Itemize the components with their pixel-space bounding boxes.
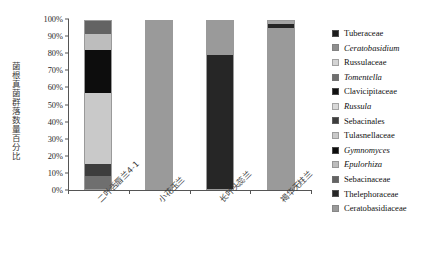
y-tick-mark — [65, 87, 69, 88]
bar-3 — [206, 20, 234, 190]
bar-segment — [268, 28, 294, 189]
legend-swatch-icon — [332, 74, 339, 81]
legend-swatch-icon — [332, 103, 339, 110]
legend-item-russula[interactable]: Russula — [332, 99, 438, 114]
y-tick-label: 20% — [48, 151, 63, 160]
bar-segment — [207, 21, 233, 55]
y-tick-mark — [65, 36, 69, 37]
bar-segment — [85, 34, 111, 49]
y-tick-label: 60% — [48, 83, 63, 92]
legend-swatch-icon — [332, 59, 339, 66]
stacked-bar-chart: 菌根真菌群落数量百分比 100%90%80%70%60%50%40%30%20%… — [0, 0, 439, 258]
legend-item-epulorhiza[interactable]: Epulorhiza — [332, 157, 438, 172]
legend-swatch-icon — [332, 205, 339, 212]
legend-label: Gymnomyces — [344, 146, 390, 155]
legend-swatch-icon — [332, 30, 339, 37]
y-axis-title: 菌根真菌群落数量百分比 — [6, 26, 22, 196]
bar-segment — [85, 21, 111, 34]
bar-segment — [207, 55, 233, 189]
legend-label: Russula — [344, 102, 371, 111]
bar-segment — [146, 21, 172, 189]
y-tick-mark — [65, 121, 69, 122]
legend-swatch-icon — [332, 44, 339, 51]
plot-area: 100%90%80%70%60%50%40%30%20%10%0% — [68, 19, 311, 191]
y-tick-label: 0% — [52, 186, 63, 195]
legend-item-thelephoraceae[interactable]: Thelephoraceae — [332, 187, 438, 202]
y-axis-line — [68, 19, 69, 191]
bar-4 — [267, 20, 295, 190]
legend-item-tomentella[interactable]: Tomentella — [332, 70, 438, 85]
legend-label: Ceratobasidiaceae — [344, 204, 407, 213]
legend-swatch-icon — [332, 176, 339, 183]
y-tick-mark — [65, 155, 69, 156]
y-tick-label: 80% — [48, 49, 63, 58]
legend-label: Tuberaceae — [344, 29, 383, 38]
y-tick-mark — [65, 19, 69, 20]
legend-label: Tomentella — [344, 73, 382, 82]
legend-swatch-icon — [332, 161, 339, 168]
y-tick-label: 100% — [43, 15, 63, 24]
x-tick-mark — [68, 190, 69, 194]
y-tick-label: 40% — [48, 117, 63, 126]
y-tick-label: 90% — [48, 32, 63, 41]
legend-item-tuberaceae[interactable]: Tuberaceae — [332, 26, 438, 41]
chart-legend: TuberaceaeCeratobasidiumRussulaceaeTomen… — [332, 26, 438, 216]
y-tick-mark — [65, 70, 69, 71]
legend-item-gymnomyces[interactable]: Gymnomyces — [332, 143, 438, 158]
bar-segment — [85, 93, 111, 164]
x-tick-mark — [311, 190, 312, 194]
x-tick-mark — [129, 190, 130, 194]
legend-label: Tulasnellaceae — [344, 131, 395, 140]
y-tick-mark — [65, 138, 69, 139]
y-tick-label: 10% — [48, 168, 63, 177]
legend-label: Epulorhiza — [344, 160, 382, 169]
legend-label: Sebacinaceae — [344, 175, 390, 184]
y-tick-mark — [65, 104, 69, 105]
bar-2 — [145, 20, 173, 190]
legend-item-russulaceae[interactable]: Russulaceae — [332, 55, 438, 70]
bar-1 — [84, 20, 112, 190]
y-tick-mark — [65, 53, 69, 54]
y-tick-label: 70% — [48, 66, 63, 75]
legend-label: Ceratobasidium — [344, 44, 399, 53]
legend-label: Clavicipitaceae — [344, 87, 397, 96]
legend-swatch-icon — [332, 147, 339, 154]
y-tick-label: 30% — [48, 134, 63, 143]
legend-item-ceratobasidiaceae[interactable]: Ceratobasidiaceae — [332, 201, 438, 216]
bar-segment — [85, 50, 111, 94]
bar-segment — [85, 164, 111, 176]
legend-item-sebacinaceae[interactable]: Sebacinaceae — [332, 172, 438, 187]
x-tick-mark — [190, 190, 191, 194]
legend-label: Sebacinales — [344, 117, 385, 126]
x-tick-mark — [250, 190, 251, 194]
legend-swatch-icon — [332, 190, 339, 197]
legend-item-tulasnellaceae[interactable]: Tulasnellaceae — [332, 128, 438, 143]
y-tick-mark — [65, 172, 69, 173]
legend-swatch-icon — [332, 88, 339, 95]
legend-swatch-icon — [332, 132, 339, 139]
y-tick-label: 50% — [48, 100, 63, 109]
legend-item-ceratobasidium[interactable]: Ceratobasidium — [332, 41, 438, 56]
legend-swatch-icon — [332, 117, 339, 124]
legend-item-clavicipitaceae[interactable]: Clavicipitaceae — [332, 84, 438, 99]
legend-item-sebacinales[interactable]: Sebacinales — [332, 114, 438, 129]
legend-label: Thelephoraceae — [344, 190, 398, 199]
legend-label: Russulaceae — [344, 58, 386, 67]
